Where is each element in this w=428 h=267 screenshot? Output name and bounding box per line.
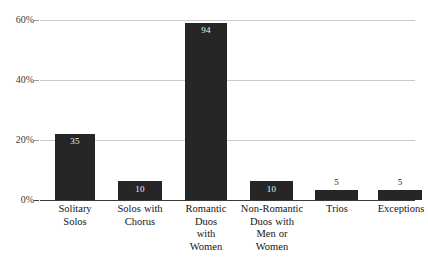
bar-slot-trios: 5 bbox=[315, 20, 358, 200]
x-axis-baseline bbox=[40, 200, 415, 201]
bar-value-exceptions: 5 bbox=[378, 178, 422, 187]
x-axis-category-labels: SolitarySolos Solos withChorus RomanticD… bbox=[40, 203, 415, 265]
bar-chart: 60% 40% 20% 0% 35 10 94 bbox=[0, 0, 428, 267]
bar-value-romantic-duos-with-women: 94 bbox=[185, 26, 227, 35]
category-label-solos-with-chorus: Solos withChorus bbox=[108, 203, 172, 228]
bar-non-romantic-duos: 10 bbox=[250, 181, 293, 200]
y-tick-label-0: 0% bbox=[21, 195, 34, 205]
tick-0 bbox=[34, 200, 39, 201]
bar-solitary-solos: 35 bbox=[55, 134, 95, 200]
bar-solos-with-chorus: 10 bbox=[118, 181, 162, 200]
tick-60 bbox=[34, 20, 39, 21]
bar-value-solos-with-chorus: 10 bbox=[118, 185, 162, 194]
y-axis: 60% 40% 20% 0% bbox=[0, 20, 34, 200]
bar-slot-romantic-duos-with-women: 94 bbox=[185, 20, 227, 200]
tick-40 bbox=[34, 80, 39, 81]
y-tick-label-60: 60% bbox=[16, 15, 34, 25]
bar-slot-solos-with-chorus: 10 bbox=[118, 20, 162, 200]
y-tick-label-20: 20% bbox=[16, 135, 34, 145]
category-label-exceptions: Exceptions bbox=[370, 203, 428, 216]
bar-value-non-romantic-duos: 10 bbox=[250, 185, 293, 194]
bar-value-trios: 5 bbox=[315, 178, 358, 187]
bars-layer: 35 10 94 10 5 5 bbox=[40, 20, 415, 200]
category-label-solitary-solos: SolitarySolos bbox=[48, 203, 102, 228]
category-label-trios: Trios bbox=[312, 203, 362, 216]
bar-slot-non-romantic-duos: 10 bbox=[250, 20, 293, 200]
bar-slot-exceptions: 5 bbox=[378, 20, 422, 200]
tick-20 bbox=[34, 140, 39, 141]
bar-trios: 5 bbox=[315, 190, 358, 200]
category-label-non-romantic-duos: Non-RomanticDuos withMen orWomen bbox=[238, 203, 306, 253]
bar-exceptions: 5 bbox=[378, 190, 422, 200]
bar-slot-solitary-solos: 35 bbox=[55, 20, 95, 200]
bar-value-solitary-solos: 35 bbox=[55, 137, 95, 146]
bar-romantic-duos-with-women: 94 bbox=[185, 23, 227, 200]
y-tick-label-40: 40% bbox=[16, 75, 34, 85]
category-label-romantic-duos: RomanticDuoswithWomen bbox=[176, 203, 236, 253]
